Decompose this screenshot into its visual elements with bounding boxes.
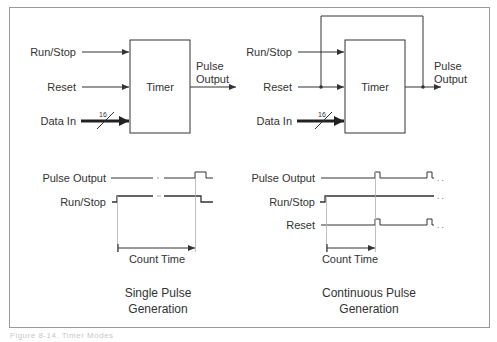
single-runstop-waveform-a bbox=[112, 196, 153, 202]
single-pulse-timing-diagram: Pulse Output Run/Stop Count Time Single … bbox=[42, 172, 213, 316]
single-output-label-1: Pulse bbox=[196, 60, 224, 72]
single-runstop-waveform-b bbox=[164, 196, 213, 202]
continuous-timer-label: Timer bbox=[361, 81, 389, 93]
continuous-bus-width: 16 bbox=[318, 111, 326, 118]
continuous-input-runstop-label: Run/Stop bbox=[246, 46, 292, 58]
single-timing-pulse-output-label: Pulse Output bbox=[42, 172, 106, 184]
continuous-input-datain-label: Data In bbox=[257, 115, 292, 127]
continuous-timing-runstop-label: Run/Stop bbox=[269, 196, 315, 208]
continuous-caption-line-2: Generation bbox=[339, 302, 398, 316]
single-output-label-2: Output bbox=[196, 73, 229, 85]
continuous-reset-dots: . . bbox=[437, 221, 444, 230]
single-pulse-output-waveform-b bbox=[164, 172, 213, 178]
single-caption-line-2: Generation bbox=[128, 302, 187, 316]
feedback-junction-output bbox=[421, 85, 425, 89]
continuous-output-label-1: Pulse bbox=[434, 60, 462, 72]
single-count-time-label: Count Time bbox=[129, 253, 185, 265]
single-bus-width: 16 bbox=[99, 111, 107, 118]
continuous-timing-pulse-output-label: Pulse Output bbox=[251, 172, 315, 184]
continuous-caption-line-1: Continuous Pulse bbox=[322, 286, 416, 300]
single-pulse-block-diagram: Timer Run/Stop Reset Data In 16 Pulse Ou… bbox=[30, 40, 236, 133]
continuous-runstop-waveform bbox=[320, 196, 434, 202]
single-timing-runstop-label: Run/Stop bbox=[60, 196, 106, 208]
single-timer-label: Timer bbox=[146, 81, 174, 93]
continuous-count-time-label: Count Time bbox=[322, 253, 378, 265]
continuous-output-label-2: Output bbox=[434, 73, 467, 85]
feedback-junction-reset bbox=[319, 85, 323, 89]
continuous-timing-reset-label: Reset bbox=[286, 219, 315, 231]
continuous-pulse-output-dots: . . bbox=[437, 174, 444, 183]
single-input-datain-label: Data In bbox=[41, 115, 76, 127]
single-input-reset-label: Reset bbox=[47, 81, 76, 93]
continuous-pulse-output-waveform bbox=[321, 172, 434, 178]
continuous-input-reset-label: Reset bbox=[263, 81, 292, 93]
figure-caption: Figure 8-14. Timer Modes bbox=[10, 331, 114, 340]
continuous-pulse-timing-diagram: Pulse Output . . Run/Stop . . Reset . . … bbox=[251, 172, 443, 316]
timer-modes-diagram: Timer Run/Stop Reset Data In 16 Pulse Ou… bbox=[0, 0, 497, 342]
continuous-reset-waveform bbox=[321, 219, 434, 225]
continuous-runstop-dots: . . bbox=[437, 192, 444, 201]
single-input-runstop-label: Run/Stop bbox=[30, 46, 76, 58]
continuous-pulse-block-diagram: Timer Run/Stop Reset Data In 16 Pulse Ou… bbox=[246, 16, 467, 133]
single-caption-line-1: Single Pulse bbox=[125, 286, 192, 300]
